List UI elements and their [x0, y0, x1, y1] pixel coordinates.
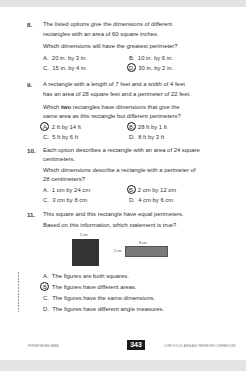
square-shape: [72, 239, 99, 266]
footer-left-title: PERIMETER AND AREA: [28, 345, 59, 348]
question-stem-line: rectangles with an area of 60 square inc…: [43, 31, 159, 38]
copyright-sidenote: [17, 272, 20, 312]
footer-right-title: CORE FOCUS: AREA AND PERIMETER COMPARISO…: [164, 345, 236, 348]
question-number: 8.: [27, 21, 32, 28]
question-prompt-line: 28 centimeters?: [43, 176, 85, 183]
choice-d[interactable]: D. 8 ft by 3 ft: [129, 134, 164, 140]
page-number: 343: [127, 340, 145, 350]
question-number: 11.: [27, 211, 35, 218]
selected-answer-circle: [127, 122, 136, 131]
question-stem-line: A rectangle with a length of 7 feet and …: [43, 81, 185, 88]
choice-d[interactable]: D. The figures have different angle meas…: [43, 306, 164, 312]
selected-answer-circle: [127, 63, 136, 72]
question-stem-line: The listed options give the dimensions o…: [43, 21, 172, 28]
selected-answer-circle: [127, 185, 136, 194]
choice-a[interactable]: A. 1 cm by 24 cm: [43, 187, 90, 193]
question-number: 9.: [27, 81, 32, 88]
choice-c[interactable]: C. 3 cm by 8 cm: [43, 197, 87, 203]
question-prompt-line: Which dimensions describe a rectangle wi…: [43, 167, 196, 174]
choice-a[interactable]: A. 20 in. by 3 in.: [43, 55, 87, 61]
rectangle-length-label: 8 cm: [139, 241, 146, 245]
question-prompt: Which two rectangles have dimensions tha…: [43, 104, 180, 111]
choice-c[interactable]: C. 15 in. by 4 in.: [43, 65, 87, 71]
question-prompt: Which dimensions will have the greatest …: [43, 43, 178, 50]
question-number: 10.: [27, 147, 36, 154]
choice-c[interactable]: C. The figures have the same dimensions.: [43, 295, 155, 301]
question-stem-line: has an area of 28 square feet and a peri…: [43, 91, 191, 98]
question-stem: This square and this rectangle have equa…: [43, 211, 183, 218]
rectangle-shape: [125, 246, 168, 257]
rectangle-width-label: 2 cm: [114, 249, 121, 253]
choice-b[interactable]: B. 2 cm by 12 cm: [129, 187, 176, 193]
question-prompt: Based on this information, which stateme…: [43, 222, 176, 229]
selected-answer-circle: [40, 282, 49, 291]
question-prompt-line: same area as this rectangle but differen…: [43, 113, 181, 120]
choice-d[interactable]: D. 4 cm by 6 cm: [129, 197, 173, 203]
choice-c[interactable]: C. 5 ft by 6 ft: [43, 134, 78, 140]
top-edge-band: [0, 0, 246, 7]
selected-answer-circle: [40, 122, 49, 131]
choice-b[interactable]: B. 10 in. by 6 in.: [129, 55, 173, 61]
question-stem-line: Each option describes a rectangle with a…: [43, 147, 200, 154]
choice-a[interactable]: A. The figures are both squares.: [43, 273, 129, 279]
choice-b[interactable]: B. The figures have different areas.: [43, 284, 137, 290]
square-side-label: 5 cm: [80, 233, 87, 237]
question-stem-line: centimeters.: [43, 156, 75, 163]
bottom-edge-band: [0, 360, 246, 371]
